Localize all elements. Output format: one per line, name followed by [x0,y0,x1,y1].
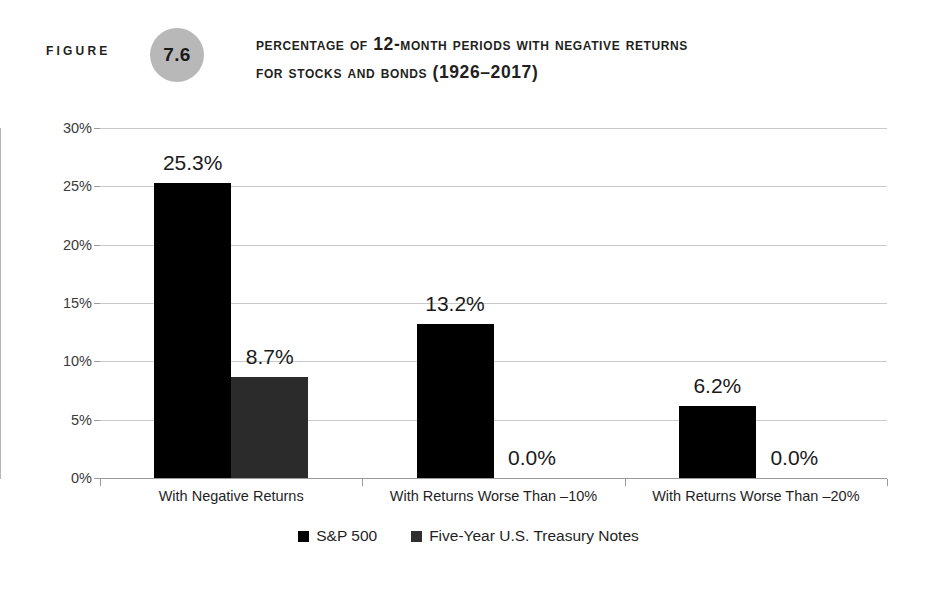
bar-value-label: 0.0% [770,446,818,470]
x-axis-separator-tick [100,479,101,486]
y-axis-tick [94,245,100,246]
y-axis-label: 25% [40,178,92,194]
bar-chart: 0%5%10%15%20%25%30% 25.3%8.7%13.2%0.0%6.… [0,0,937,589]
bar-value-label: 6.2% [693,374,741,398]
y-axis-labels: 0%5%10%15%20%25%30% [30,128,92,478]
bar-sp500 [679,406,756,478]
y-axis-tick [94,186,100,187]
legend-swatch-icon [298,531,309,542]
bar-treasury [231,377,308,479]
legend-label: S&P 500 [316,527,377,545]
x-axis-category-label: With Negative Returns [159,488,304,504]
bar-sp500 [417,324,494,478]
x-axis-separator-tick [887,479,888,486]
y-axis-label: 0% [40,470,92,486]
bar-value-label: 8.7% [246,345,294,369]
x-axis-separator-tick [362,479,363,486]
bar-value-label: 25.3% [163,151,223,175]
y-axis-tick [94,303,100,304]
x-axis-separator-tick [625,479,626,486]
axis-baseline [100,478,887,479]
y-axis-label: 10% [40,353,92,369]
y-axis-label: 15% [40,295,92,311]
y-axis-tick [94,361,100,362]
bar-sp500 [154,183,231,478]
bar-value-label: 0.0% [508,446,556,470]
gridline [100,128,887,129]
y-axis-tick [94,420,100,421]
legend-item: S&P 500 [298,527,377,545]
bar-value-label: 13.2% [425,292,485,316]
legend-swatch-icon [411,531,422,542]
y-axis-line [0,128,1,479]
chart-legend: S&P 500Five-Year U.S. Treasury Notes [0,527,937,545]
y-axis-label: 5% [40,412,92,428]
legend-label: Five-Year U.S. Treasury Notes [429,527,639,545]
plot-area: 25.3%8.7%13.2%0.0%6.2%0.0% [100,128,887,478]
y-axis-label: 20% [40,237,92,253]
legend-item: Five-Year U.S. Treasury Notes [411,527,639,545]
x-axis-category-label: With Returns Worse Than –20% [652,488,859,504]
y-axis-label: 30% [40,120,92,136]
x-axis-category-label: With Returns Worse Than –10% [390,488,597,504]
y-axis-tick [94,128,100,129]
